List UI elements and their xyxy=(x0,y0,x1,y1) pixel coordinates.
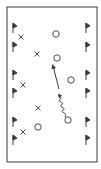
attacker-o-marker xyxy=(35,124,41,130)
right-flag-icon xyxy=(86,135,90,145)
left-flag-icon xyxy=(13,42,17,52)
left-flag-icon xyxy=(13,70,17,80)
attacker-o-marker xyxy=(65,117,71,123)
left-flag-markers xyxy=(13,23,17,145)
defender-x-marker xyxy=(19,35,24,40)
field-boundary xyxy=(7,7,97,162)
right-flag-icon xyxy=(86,23,90,33)
dribble-arrow xyxy=(59,95,66,117)
right-flag-icon xyxy=(86,70,90,80)
right-flag-icon xyxy=(86,88,90,98)
defender-x-markers xyxy=(19,35,41,135)
attacker-o-marker xyxy=(68,77,74,83)
attacker-o-marker xyxy=(53,31,59,37)
right-flag-icon xyxy=(86,42,90,52)
right-flag-markers xyxy=(86,23,90,145)
left-flag-icon xyxy=(13,88,17,98)
defender-x-marker xyxy=(21,130,26,135)
drill-diagram xyxy=(0,0,101,169)
left-flag-icon xyxy=(13,135,17,145)
left-flag-icon xyxy=(13,23,17,33)
defender-x-marker xyxy=(36,106,41,111)
left-flag-icon xyxy=(13,117,17,127)
defender-x-marker xyxy=(35,52,40,57)
attacker-o-markers xyxy=(35,31,74,130)
defender-x-marker xyxy=(21,83,26,88)
pass-arrow xyxy=(53,66,59,89)
right-flag-icon xyxy=(86,117,90,127)
attacker-o-marker xyxy=(54,55,60,61)
